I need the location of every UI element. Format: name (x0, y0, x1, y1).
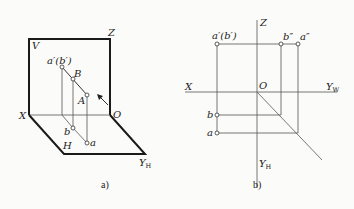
v-plane-frame (29, 39, 110, 115)
label-B: B (73, 68, 81, 79)
point-b-h (71, 126, 75, 130)
caption-b: b) (253, 179, 261, 191)
figure-a: V Z a′(b′) B A X O b a H YH a) (18, 27, 152, 191)
miter-line-45 (257, 92, 322, 160)
point-a-b (215, 131, 219, 135)
projection-diagram: V Z a′(b′) B A X O b a H YH a) Z a′(b′) (0, 0, 354, 209)
line-ab-h-projection (73, 128, 87, 143)
label-A: A (77, 95, 85, 106)
label-a-prime-b-prime-a: a′(b′) (47, 55, 72, 66)
label-b-b: b (207, 109, 213, 120)
label-a-a: a (90, 137, 96, 148)
label-x-a: X (18, 110, 27, 121)
label-z-b: Z (259, 17, 268, 28)
label-yh-a: YH (139, 157, 152, 170)
label-x-b: X (184, 81, 193, 92)
point-a-dprime (296, 42, 300, 46)
label-yh-b: YH (259, 158, 272, 171)
label-a-dprime: a″ (300, 31, 310, 42)
label-a-b: a (207, 127, 213, 138)
point-a-h (85, 141, 89, 145)
label-b-dprime: b″ (283, 31, 293, 42)
label-o-b: O (259, 80, 267, 91)
figure-b: Z a′(b′) b″ a″ X O YW b a YH b) (184, 17, 340, 191)
label-b-a: b (64, 126, 70, 137)
point-a-prime-b-prime-b (215, 42, 219, 46)
label-v: V (32, 40, 41, 51)
label-h: H (62, 140, 72, 151)
label-a-prime-b-prime-b: a′(b′) (212, 30, 237, 41)
point-b-dprime (279, 42, 283, 46)
point-b-b (215, 113, 219, 117)
point-A (85, 93, 89, 97)
caption-a: a) (101, 179, 109, 191)
label-z-a: Z (107, 27, 116, 38)
label-o-a: O (113, 109, 121, 120)
